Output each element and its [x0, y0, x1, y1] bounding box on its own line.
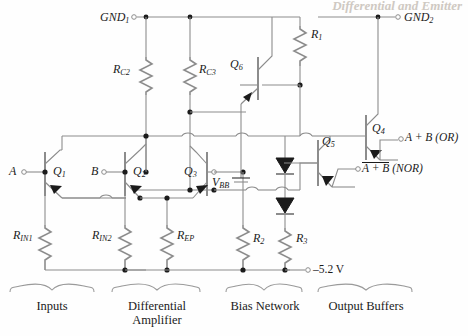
- label-input-b: B: [91, 165, 98, 177]
- transistor-q6-symbol: [240, 17, 272, 136]
- label-output-or: A + B (OR): [405, 132, 458, 144]
- section-bias-network: Bias Network: [226, 300, 304, 314]
- output-nor-suffix: (NOR): [389, 162, 423, 174]
- label-vbb: VBB: [212, 176, 229, 190]
- label-q5: Q5: [322, 135, 335, 149]
- label-q1: Q1: [53, 165, 66, 179]
- brace-bias-network: [226, 284, 302, 292]
- brace-inputs: [10, 284, 94, 292]
- label-q6: Q6: [230, 58, 243, 72]
- section-differential-amplifier: Differential Amplifier: [113, 300, 201, 327]
- ground-symbol: [232, 136, 250, 182]
- branch-r1: [262, 17, 306, 136]
- label-q3: Q3: [184, 165, 197, 179]
- label-rc2: RC2: [113, 63, 130, 77]
- schematic-canvas: Differential and Emitter .w{stroke:#8c8c…: [0, 0, 468, 336]
- rail-gnd1: [132, 15, 300, 20]
- resistor-rin2-symbol: [119, 225, 131, 273]
- brace-output-buffers: [318, 284, 412, 292]
- output-nor-overline: A + B: [362, 162, 389, 175]
- branch-r2: [237, 172, 249, 273]
- label-input-a: A: [9, 165, 16, 177]
- brace-differential-amplifier: [112, 284, 200, 292]
- section-diffamp-line1: Differential: [113, 300, 201, 314]
- rail-gnd2: [318, 15, 400, 20]
- label-rep: REP: [177, 229, 194, 243]
- label-r2: R2: [253, 232, 264, 246]
- label-rin2: RIN2: [92, 229, 112, 243]
- label-r1: R1: [311, 28, 322, 42]
- resistor-rep-symbol: [125, 195, 290, 272]
- label-supply-rail: –5.2 V: [313, 264, 344, 276]
- transistor-q2-symbol: [62, 144, 193, 225]
- label-r3: R3: [296, 232, 307, 246]
- label-rin1: RIN1: [13, 229, 33, 243]
- transistor-q1-symbol: [22, 150, 126, 225]
- section-diffamp-line2: Amplifier: [113, 314, 201, 328]
- label-q4: Q4: [372, 122, 385, 136]
- label-q2: Q2: [133, 165, 146, 179]
- section-inputs: Inputs: [12, 300, 92, 314]
- label-gnd2: GND2: [404, 11, 433, 25]
- label-gnd1: GND1: [100, 11, 129, 25]
- section-output-buffers: Output Buffers: [318, 300, 414, 314]
- label-rc3: RC3: [199, 63, 216, 77]
- q5-base-feed: [214, 163, 318, 190]
- branch-diodes-r3: [276, 136, 310, 273]
- transistor-q4-symbol: [330, 17, 403, 160]
- label-output-nor: A + B (NOR): [362, 162, 423, 175]
